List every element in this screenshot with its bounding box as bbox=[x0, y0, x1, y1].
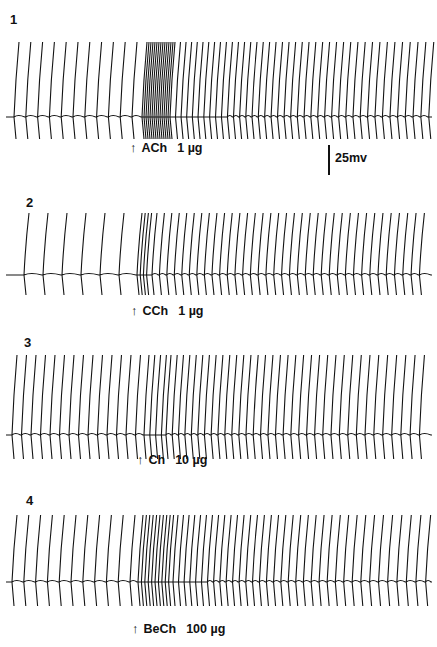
drug-dose: 10 µg bbox=[175, 453, 207, 467]
action-potential-trace bbox=[0, 485, 437, 636]
trace-line bbox=[6, 515, 432, 606]
drug-application-label: ↑BeCh100 µg bbox=[132, 621, 225, 636]
drug-application-label: ↑ACh1 µg bbox=[130, 140, 202, 155]
arrow-up-icon: ↑ bbox=[131, 303, 138, 318]
drug-name: Ch bbox=[149, 453, 166, 467]
action-potential-trace bbox=[0, 335, 437, 489]
trace-panel-2: 2 ↑CCh1 µg bbox=[0, 195, 437, 325]
action-potential-trace bbox=[0, 195, 437, 325]
trace-line bbox=[6, 42, 434, 139]
drug-dose: 1 µg bbox=[177, 141, 202, 155]
drug-name: CCh bbox=[143, 304, 169, 318]
scale-bar-line bbox=[328, 145, 330, 175]
trace-line bbox=[6, 213, 432, 295]
drug-application-label: ↑CCh1 µg bbox=[131, 303, 203, 318]
trace-line bbox=[6, 355, 432, 459]
scale-bar-label: 25mv bbox=[335, 151, 367, 165]
trace-panel-1: 1 ↑ACh1 µg bbox=[0, 12, 437, 169]
drug-application-label: ↑Ch10 µg bbox=[137, 452, 207, 467]
arrow-up-icon: ↑ bbox=[132, 621, 139, 636]
drug-dose: 100 µg bbox=[186, 622, 225, 636]
drug-name: BeCh bbox=[144, 622, 177, 636]
trace-panel-4: 4 ↑BeCh100 µg bbox=[0, 485, 437, 636]
drug-name: ACh bbox=[142, 141, 168, 155]
drug-dose: 1 µg bbox=[178, 304, 203, 318]
trace-panel-3: 3 ↑Ch10 µg bbox=[0, 335, 437, 489]
arrow-up-icon: ↑ bbox=[130, 140, 137, 155]
arrow-up-icon: ↑ bbox=[137, 452, 144, 467]
action-potential-trace bbox=[0, 12, 437, 169]
